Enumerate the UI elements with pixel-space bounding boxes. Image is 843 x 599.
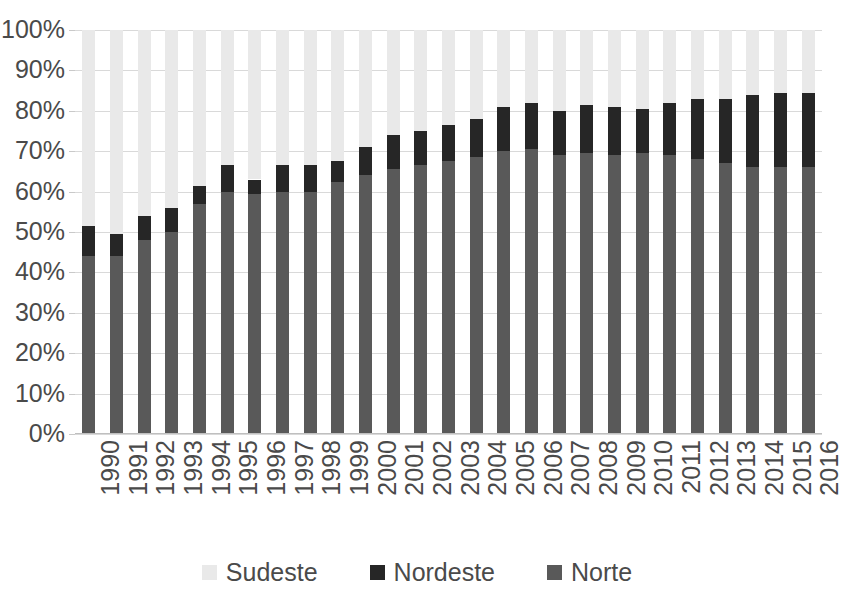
bars-layer (75, 30, 822, 434)
bar-segment-sudeste (193, 30, 206, 186)
bar (359, 30, 372, 434)
bar (497, 30, 510, 434)
bar-segment-norte (802, 167, 815, 434)
bar (276, 30, 289, 434)
bar-segment-sudeste (691, 30, 704, 99)
legend-swatch-icon (202, 565, 217, 580)
bar-segment-nordeste (525, 103, 538, 149)
bar-segment-nordeste (193, 186, 206, 204)
x-tick-label: 2011 (679, 440, 704, 494)
x-tick-label: 1998 (319, 440, 344, 496)
bar-segment-sudeste (774, 30, 787, 93)
bar-segment-sudeste (497, 30, 510, 107)
bar-segment-nordeste (442, 125, 455, 161)
bar-segment-nordeste (331, 161, 344, 181)
bar-segment-nordeste (774, 93, 787, 168)
chart-legend: SudesteNordesteNorte (0, 552, 834, 592)
bar-segment-norte (442, 161, 455, 434)
x-tick-label: 2004 (485, 440, 510, 496)
bar-segment-sudeste (276, 30, 289, 165)
legend-label: Norte (571, 560, 632, 585)
bar-segment-nordeste (138, 216, 151, 240)
x-tick-label: 2010 (651, 440, 676, 496)
y-tick-label: 80% (15, 98, 65, 123)
bar (165, 30, 178, 434)
bar-segment-sudeste (387, 30, 400, 135)
bar-segment-sudeste (82, 30, 95, 226)
bar-segment-nordeste (221, 165, 234, 191)
x-axis-baseline (75, 433, 822, 434)
bar-segment-sudeste (553, 30, 566, 111)
bar (663, 30, 676, 434)
x-tick-label: 2009 (624, 440, 649, 496)
bar-segment-sudeste (414, 30, 427, 131)
bar (82, 30, 95, 434)
x-tick-label: 2006 (541, 440, 566, 496)
y-tick-label: 70% (15, 138, 65, 163)
bar (608, 30, 621, 434)
bar-segment-sudeste (304, 30, 317, 165)
legend-item-sudeste[interactable]: Sudeste (202, 560, 318, 585)
bar-segment-norte (470, 157, 483, 434)
bar (636, 30, 649, 434)
x-tick-label: 2001 (402, 440, 427, 496)
bar-segment-norte (138, 240, 151, 434)
legend-label: Sudeste (226, 560, 318, 585)
bar-segment-sudeste (719, 30, 732, 99)
bar (331, 30, 344, 434)
x-tick-label: 1999 (347, 440, 372, 496)
legend-item-nordeste[interactable]: Nordeste (370, 560, 495, 585)
bar-segment-norte (414, 165, 427, 434)
x-tick-label: 2013 (734, 440, 759, 496)
bar (304, 30, 317, 434)
bar-segment-nordeste (248, 180, 261, 194)
x-tick-label: 2015 (790, 440, 815, 496)
y-tick-label: 40% (15, 259, 65, 284)
bar (746, 30, 759, 434)
bar-segment-norte (497, 151, 510, 434)
x-tick-label: 1993 (181, 440, 206, 496)
x-tick-label: 1997 (292, 440, 317, 496)
bar (719, 30, 732, 434)
bar (387, 30, 400, 434)
x-tick-label: 1991 (126, 440, 151, 496)
bar-segment-norte (304, 192, 317, 434)
y-tick-label: 60% (15, 179, 65, 204)
x-tick-label: 2014 (762, 440, 787, 496)
bar-segment-norte (165, 232, 178, 434)
bar-segment-norte (746, 167, 759, 434)
y-tick-label: 0% (29, 421, 65, 446)
bar (470, 30, 483, 434)
bar-segment-sudeste (359, 30, 372, 147)
bar-segment-norte (636, 153, 649, 434)
x-tick-label: 2005 (513, 440, 538, 496)
bar-segment-norte (525, 149, 538, 434)
bar-segment-sudeste (580, 30, 593, 105)
bar-segment-norte (193, 204, 206, 434)
legend-item-norte[interactable]: Norte (547, 560, 632, 585)
bar-segment-nordeste (276, 165, 289, 191)
bar-segment-norte (248, 194, 261, 434)
legend-swatch-icon (370, 565, 385, 580)
bar-segment-sudeste (221, 30, 234, 165)
bar (525, 30, 538, 434)
bar-segment-nordeste (387, 135, 400, 169)
bar (138, 30, 151, 434)
x-tick-label: 2008 (596, 440, 621, 496)
bar-segment-sudeste (608, 30, 621, 107)
x-tick-label: 1995 (236, 440, 261, 496)
bar-segment-nordeste (802, 93, 815, 168)
bar (414, 30, 427, 434)
bar-segment-norte (359, 175, 372, 434)
bar-segment-nordeste (82, 226, 95, 256)
x-tick-label: 2007 (568, 440, 593, 496)
bar-segment-sudeste (802, 30, 815, 93)
bar (802, 30, 815, 434)
bar-segment-norte (774, 167, 787, 434)
bar-segment-norte (663, 155, 676, 434)
bar-segment-sudeste (636, 30, 649, 109)
bar-segment-norte (331, 182, 344, 435)
bar (442, 30, 455, 434)
bar-segment-nordeste (746, 95, 759, 168)
x-tick-label: 1990 (98, 440, 123, 496)
